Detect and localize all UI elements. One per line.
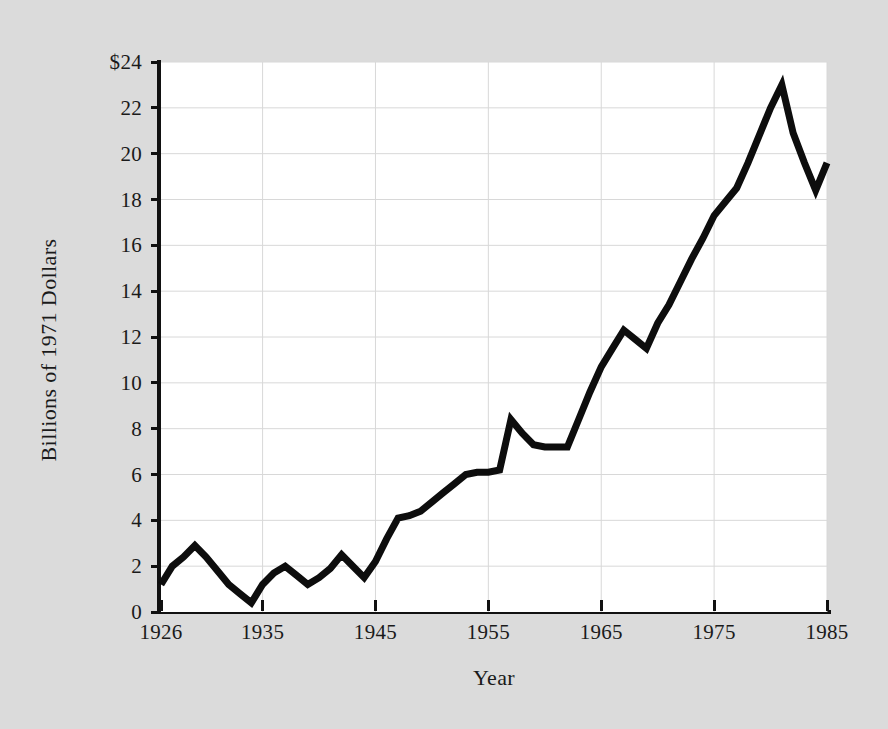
y-tick-mark xyxy=(151,519,161,522)
y-tick-mark xyxy=(151,244,161,247)
x-tick-mark xyxy=(600,600,603,611)
x-tick-label: 1975 xyxy=(693,620,736,645)
figure-container: $242220181614121086420 19261935194519551… xyxy=(0,0,888,729)
x-tick-label: 1935 xyxy=(241,620,284,645)
y-tick-mark xyxy=(151,473,161,476)
x-tick-mark xyxy=(160,600,163,611)
y-tick-mark xyxy=(151,381,161,384)
x-tick-mark xyxy=(713,600,716,611)
x-tick-label: 1955 xyxy=(467,620,510,645)
plot-area xyxy=(161,62,827,612)
x-tick-label: 1926 xyxy=(139,620,182,645)
x-tick-mark xyxy=(261,600,264,611)
x-tick-label: 1945 xyxy=(354,620,397,645)
y-tick-mark xyxy=(151,565,161,568)
x-tick-mark xyxy=(826,600,829,611)
y-tick-label: 0 xyxy=(30,600,142,625)
y-tick-mark xyxy=(151,290,161,293)
y-tick-mark xyxy=(151,106,161,109)
y-tick-mark xyxy=(151,336,161,339)
y-tick-mark xyxy=(151,61,161,64)
x-tick-label: 1965 xyxy=(580,620,623,645)
data-polyline xyxy=(161,85,827,603)
y-axis-title: Billions of 1971 Dollars xyxy=(36,115,62,585)
y-tick-mark xyxy=(151,152,161,155)
y-tick-label: $24 xyxy=(30,50,142,75)
y-tick-mark xyxy=(151,427,161,430)
x-tick-mark xyxy=(374,600,377,611)
x-axis-title: Year xyxy=(161,665,827,691)
line-series xyxy=(161,62,827,612)
x-tick-mark xyxy=(487,600,490,611)
y-tick-mark xyxy=(151,198,161,201)
x-tick-label: 1985 xyxy=(805,620,848,645)
